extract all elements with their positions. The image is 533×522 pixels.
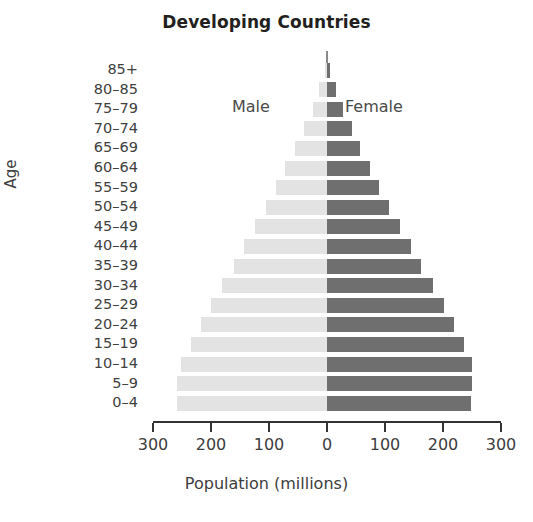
population-pyramid-figure: Developing Countries Age 85+80–8575–7970… <box>0 0 533 522</box>
bar-female <box>327 376 472 391</box>
bar-male <box>181 357 327 372</box>
bar-female <box>327 337 464 352</box>
bar-male <box>266 200 327 215</box>
y-axis-tick-label: 50–54 <box>38 199 138 214</box>
y-axis-tick-label: 5–9 <box>38 376 138 391</box>
bar-female <box>327 141 360 156</box>
y-axis-tick-label: 75–79 <box>38 101 138 116</box>
bar-female <box>327 298 444 313</box>
bar-male <box>222 278 327 293</box>
y-axis-tick-label: 30–34 <box>38 278 138 293</box>
bar-male <box>191 337 327 352</box>
y-axis-tick-label: 85+ <box>38 62 138 77</box>
series-label-female: Female <box>345 97 403 116</box>
bar-male <box>276 180 327 195</box>
bar-male <box>313 102 327 117</box>
bar-male <box>201 317 327 332</box>
x-axis-tick-label: 300 <box>471 435 531 454</box>
bar-female <box>327 259 421 274</box>
y-axis-tick-label: 65–69 <box>38 140 138 155</box>
plot-area: 85+80–8575–7970–7465–6960–6455–5950–5445… <box>0 0 533 522</box>
bar-female <box>327 121 352 136</box>
x-axis-tick-label: 0 <box>297 435 357 454</box>
bar-male <box>304 121 327 136</box>
x-axis-tick-label: 200 <box>413 435 473 454</box>
bar-female <box>327 161 370 176</box>
bar-male <box>285 161 327 176</box>
bar-male <box>319 82 327 97</box>
y-axis-tick-label: 45–49 <box>38 219 138 234</box>
x-axis-tick-label: 200 <box>181 435 241 454</box>
bar-male <box>234 259 327 274</box>
bar-female <box>327 239 411 254</box>
bar-female <box>327 357 472 372</box>
bar-male <box>177 396 327 411</box>
x-axis-tick <box>500 423 502 432</box>
x-axis-tick-label: 300 <box>123 435 183 454</box>
x-axis-tick <box>152 423 154 432</box>
x-axis-tick-label: 100 <box>355 435 415 454</box>
y-axis-tick-label: 35–39 <box>38 258 138 273</box>
bar-male <box>211 298 327 313</box>
x-axis-tick <box>210 423 212 432</box>
y-axis-tick-label: 20–24 <box>38 317 138 332</box>
x-axis-title: Population (millions) <box>0 474 533 493</box>
y-axis-tick-label: 70–74 <box>38 121 138 136</box>
bar-female <box>327 317 454 332</box>
y-axis-tick-label: 25–29 <box>38 297 138 312</box>
x-axis-tick <box>268 423 270 432</box>
bar-female <box>327 180 379 195</box>
y-axis-tick-label: 55–59 <box>38 180 138 195</box>
y-axis-tick-label: 10–14 <box>38 356 138 371</box>
x-axis-tick <box>384 423 386 432</box>
bar-female <box>327 200 389 215</box>
y-axis-tick-label: 15–19 <box>38 336 138 351</box>
x-axis-tick <box>442 423 444 432</box>
bar-male <box>177 376 327 391</box>
bar-female <box>327 278 433 293</box>
bar-male <box>295 141 327 156</box>
y-axis-tick-label: 0–4 <box>38 395 138 410</box>
bar-female <box>327 396 471 411</box>
y-axis-tick-label: 60–64 <box>38 160 138 175</box>
x-axis-tick-label: 100 <box>239 435 299 454</box>
bar-female <box>327 102 343 117</box>
y-axis-tick-label: 80–85 <box>38 82 138 97</box>
bar-female <box>327 63 330 78</box>
bar-male <box>255 219 327 234</box>
series-label-male: Male <box>232 97 270 116</box>
x-axis-tick <box>326 423 328 432</box>
bar-male <box>244 239 327 254</box>
bar-female <box>327 82 336 97</box>
bar-female <box>327 219 400 234</box>
y-axis-tick-label: 40–44 <box>38 238 138 253</box>
